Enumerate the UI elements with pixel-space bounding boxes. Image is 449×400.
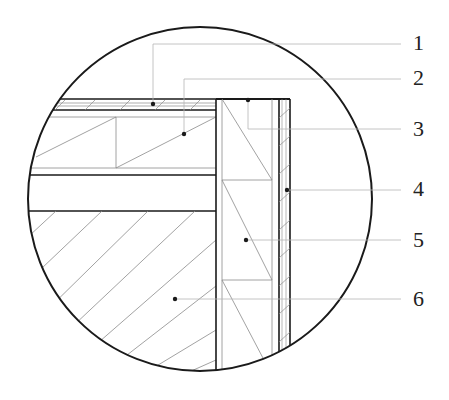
callout-label-1: 1 xyxy=(413,32,424,54)
callout-label-2: 2 xyxy=(413,67,424,89)
callout-label-3: 3 xyxy=(413,118,424,140)
slab-band xyxy=(0,175,216,211)
leader-dot-2 xyxy=(182,132,186,136)
vertical-wall-layers xyxy=(216,99,290,380)
callout-label-5: 5 xyxy=(413,229,424,251)
leader-line-1 xyxy=(153,44,401,104)
callout-label-6: 6 xyxy=(413,288,424,310)
leader-dot-5 xyxy=(244,238,248,242)
leader-dot-6 xyxy=(173,297,177,301)
leader-dot-1 xyxy=(151,102,155,106)
callout-label-4: 4 xyxy=(413,178,424,200)
leader-line-3 xyxy=(248,100,401,129)
leader-dot-4 xyxy=(285,188,289,192)
leader-lines xyxy=(153,44,401,299)
leader-dots xyxy=(151,98,289,301)
detail-diagram: 1 2 3 4 5 6 xyxy=(0,0,449,400)
leader-dot-3 xyxy=(246,98,250,102)
section-drawing xyxy=(0,0,449,400)
